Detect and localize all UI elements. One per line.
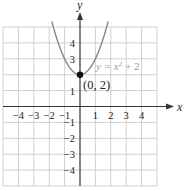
x-tick-label: 2 bbox=[108, 110, 113, 121]
axes bbox=[3, 12, 174, 186]
coordinate-plane: −4−3−2−11234431−1−2−3−4 (0, 2) y = x2 + … bbox=[0, 0, 184, 191]
y-axis-arrow-icon bbox=[77, 12, 83, 20]
curve-equation-label: y = x2 + 2 bbox=[95, 60, 139, 72]
x-tick-label: −4 bbox=[13, 110, 25, 121]
x-axis-label: x bbox=[176, 100, 183, 114]
y-tick-label: −4 bbox=[64, 165, 76, 176]
equation-base: y = x bbox=[95, 60, 119, 72]
x-axis-arrow-icon bbox=[166, 104, 174, 110]
x-tick-label: 1 bbox=[93, 110, 98, 121]
x-tick-label: 4 bbox=[139, 110, 145, 121]
y-tick-label: 3 bbox=[70, 54, 75, 65]
y-tick-label: −1 bbox=[64, 117, 75, 128]
x-tick-label: −2 bbox=[44, 110, 55, 121]
y-tick-label: 1 bbox=[70, 86, 75, 97]
x-tick-label: 3 bbox=[124, 110, 129, 121]
y-tick-label: −3 bbox=[64, 149, 75, 160]
y-tick-label: 4 bbox=[70, 38, 76, 49]
equation-suffix: + 2 bbox=[122, 60, 139, 72]
vertex-label: (0, 2) bbox=[83, 78, 110, 92]
y-tick-label: −2 bbox=[64, 133, 75, 144]
x-tick-label: −3 bbox=[28, 110, 39, 121]
y-axis-label: y bbox=[76, 0, 83, 12]
